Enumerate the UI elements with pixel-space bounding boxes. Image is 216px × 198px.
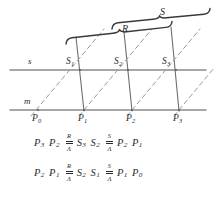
point-marker-S3 (175, 69, 177, 71)
formula-term-sub: 3 (82, 141, 86, 149)
formula-term-point: P2 (34, 167, 45, 180)
formula-projection-symbol: RΛ (66, 133, 73, 152)
formula-term-point: P2 (117, 137, 128, 150)
formula-term-point: P1 (117, 167, 128, 180)
formula-term-point: P0 (132, 167, 143, 180)
label-point-S2: S2 (114, 57, 122, 67)
point-marker-P1 (83, 109, 85, 111)
formula-term-point: S3 (77, 137, 86, 150)
formula-term-base: P (34, 167, 41, 178)
formula-term-point: S2 (91, 137, 100, 150)
formula-projection-symbol: SΛ (106, 163, 113, 182)
projection-lambda-label: Λ (67, 145, 71, 152)
connector-S2-P2 (124, 32, 132, 111)
formula-term-base: P (117, 137, 124, 148)
projection-lambda-label: Λ (107, 145, 111, 152)
formula-term-point: P1 (132, 137, 143, 150)
projection-double-bar (66, 141, 73, 144)
projection-double-bar (106, 171, 113, 174)
label-line-m: m (24, 97, 31, 106)
label-brace-S: S (160, 7, 165, 17)
formula-term-point: P2 (49, 137, 60, 150)
label-point-P1: P1 (78, 114, 87, 124)
formula-term-sub: 1 (124, 171, 128, 179)
label-point-P1-sub: 1 (84, 117, 87, 124)
formula-term-point: P1 (49, 167, 60, 180)
projective-geometry-figure: s m R S S1 S2 S3 P0 P1 P2 P3 P3P2RΛS3S2S… (0, 0, 216, 198)
label-brace-R: R (122, 24, 128, 34)
formula-term-sub: 2 (56, 141, 60, 149)
projection-center-label: R (67, 133, 71, 140)
formula-row-2: P2P1RΛS2S1SΛP1P0 (0, 158, 216, 188)
projection-lambda-label: Λ (107, 175, 111, 182)
point-marker-P2 (131, 109, 133, 111)
projection-double-bar (106, 141, 113, 144)
label-point-P3: P3 (173, 114, 182, 124)
label-point-S2-sub: 2 (119, 60, 122, 67)
label-point-P0: P0 (32, 114, 41, 124)
formula-projection-symbol: RΛ (66, 163, 73, 182)
label-line-s: s (28, 57, 32, 66)
formula-term-sub: 2 (41, 171, 45, 179)
formula-term-sub: 2 (82, 171, 86, 179)
formula-term-base: P (49, 167, 56, 178)
formula-row-1: P3P2RΛS3S2SΛP2P1 (0, 128, 216, 158)
formula-term-sub: 1 (56, 171, 60, 179)
formula-term-base: P (34, 137, 41, 148)
label-point-P2: P2 (126, 114, 135, 124)
point-marker-P3 (178, 109, 180, 111)
point-marker-S1 (79, 69, 81, 71)
label-point-S3-sub: 3 (167, 60, 170, 67)
formula-term-sub: 2 (96, 141, 100, 149)
label-point-P3-sub: 3 (179, 117, 182, 124)
formula-term-base: P (117, 167, 124, 178)
projection-lambda-label: Λ (67, 175, 71, 182)
label-point-P2-sub: 2 (132, 117, 135, 124)
formula-term-base: P (132, 137, 139, 148)
point-marker-S2 (127, 69, 129, 71)
projection-center-label: R (67, 163, 71, 170)
formula-term-sub: 3 (41, 141, 45, 149)
label-point-P0-sub: 0 (38, 117, 41, 124)
projection-center-label: S (108, 163, 111, 170)
connector-S1-P1 (76, 37, 84, 111)
dashed-ray-P2 (127, 29, 200, 116)
dashed-ray-P3 (174, 68, 214, 116)
formula-term-point: S2 (77, 167, 86, 180)
dashed-ray-P1 (79, 29, 152, 116)
formula-term-base: P (132, 167, 139, 178)
formula-term-sub: 1 (96, 171, 100, 179)
connector-S3-P3 (171, 27, 179, 111)
label-point-S1: S1 (66, 57, 74, 67)
point-marker-P0 (37, 109, 39, 111)
formula-term-point: P3 (34, 137, 45, 150)
label-point-P2-base: P (126, 113, 132, 123)
label-point-P3-base: P (173, 113, 179, 123)
dashed-ray-P0 (31, 29, 104, 116)
formula-projection-symbol: SΛ (106, 133, 113, 152)
projection-center-label: S (108, 133, 111, 140)
label-point-S1-sub: 1 (71, 60, 74, 67)
label-point-P0-base: P (32, 113, 38, 123)
formula-term-sub: 0 (139, 171, 143, 179)
formula-term-sub: 2 (124, 141, 128, 149)
label-point-S3: S3 (162, 57, 170, 67)
formula-term-base: P (49, 137, 56, 148)
label-point-P1-base: P (78, 113, 84, 123)
projection-double-bar (66, 171, 73, 174)
formula-block: P3P2RΛS3S2SΛP2P1 P2P1RΛS2S1SΛP1P0 (0, 128, 216, 188)
brace-R (66, 22, 172, 45)
formula-term-point: S1 (91, 167, 100, 180)
formula-term-sub: 1 (139, 141, 143, 149)
